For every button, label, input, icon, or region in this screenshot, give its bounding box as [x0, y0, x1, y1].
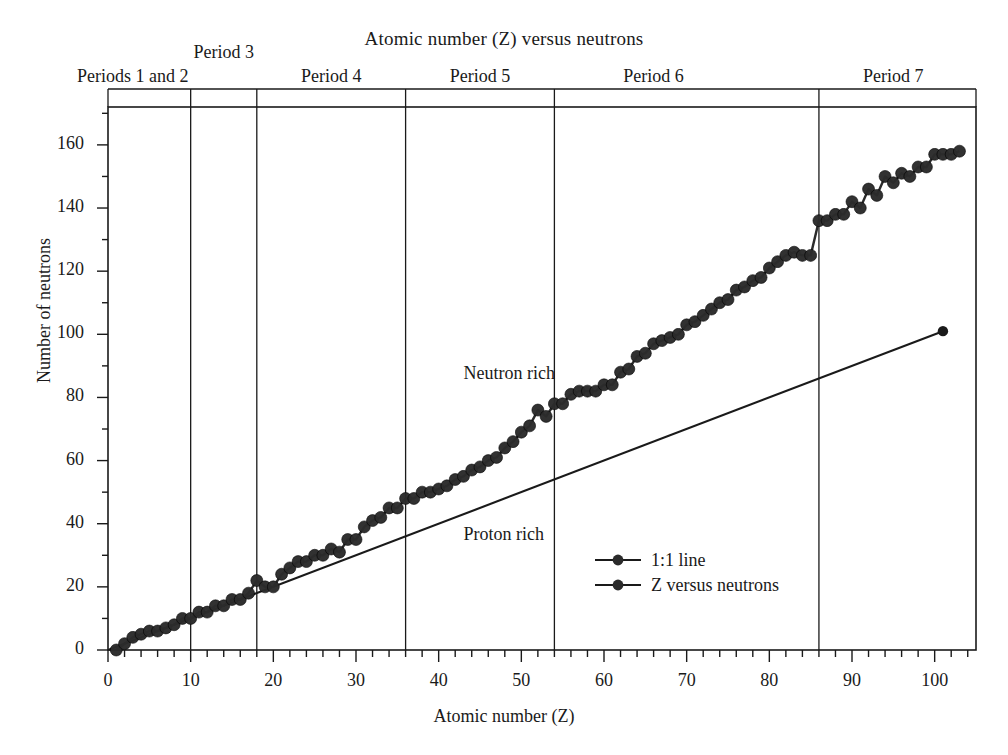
legend: 1:1 lineZ versus neutrons [595, 550, 779, 595]
data-point-marker [350, 534, 362, 546]
data-point-marker [391, 502, 403, 514]
data-point-marker [672, 328, 684, 340]
data-point-marker [491, 451, 503, 463]
data-point-marker [507, 436, 519, 448]
data-point-marker [540, 410, 552, 422]
data-point-marker [267, 581, 279, 593]
data-point-marker [904, 170, 916, 182]
legend-entry-label: Z versus neutrons [651, 575, 779, 595]
plot-canvas: 1:1 lineZ versus neutrons [0, 0, 1008, 755]
data-point-marker [375, 511, 387, 523]
data-point-marker [722, 294, 734, 306]
legend-entry-label: 1:1 line [651, 550, 706, 570]
data-point-marker [606, 379, 618, 391]
data-point-marker [524, 420, 536, 432]
data-point-marker [639, 347, 651, 359]
data-point-marker [871, 189, 883, 201]
data-point-marker [920, 161, 932, 173]
data-point-marker [838, 208, 850, 220]
data-point-marker [953, 145, 965, 157]
plot-frame [108, 107, 976, 650]
series-1to1-endpoint-marker [938, 326, 948, 336]
series-line-z-vs-neutrons [116, 151, 959, 650]
legend-swatch-marker [613, 555, 624, 566]
data-point-marker [333, 546, 345, 558]
data-point-marker [557, 398, 569, 410]
data-point-marker [243, 587, 255, 599]
legend-swatch-marker [613, 580, 624, 591]
data-point-marker [854, 202, 866, 214]
chart-figure: Atomic number (Z) versus neutrons Period… [0, 0, 1008, 755]
data-point-marker [805, 249, 817, 261]
data-point-marker [755, 271, 767, 283]
data-point-marker [623, 363, 635, 375]
data-point-marker [887, 177, 899, 189]
